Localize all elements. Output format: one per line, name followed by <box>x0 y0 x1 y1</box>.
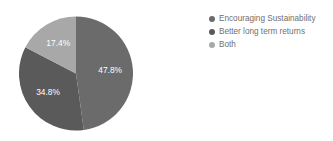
legend-item-label: Both <box>219 39 236 51</box>
pie-chart-figure: 47.8%34.8%17.4% Encouraging Sustainabili… <box>0 0 333 141</box>
legend-item[interactable]: Better long term returns <box>209 26 333 38</box>
pie-chart-plot-area: 47.8%34.8%17.4% <box>19 16 133 131</box>
legend-item-label: Better long term returns <box>219 26 305 38</box>
legend-swatch-icon <box>209 16 215 22</box>
legend-item[interactable]: Encouraging Sustainability <box>209 13 333 25</box>
pie-data-label: 17.4% <box>46 38 70 48</box>
pie-chart-svg: 47.8%34.8%17.4% <box>19 16 133 131</box>
legend-swatch-icon <box>209 29 215 35</box>
legend-item-label: Encouraging Sustainability <box>219 13 316 25</box>
pie-data-label: 47.8% <box>98 65 122 75</box>
legend-item[interactable]: Both <box>209 39 333 51</box>
legend-swatch-icon <box>209 42 215 48</box>
chart-legend: Encouraging Sustainability Better long t… <box>209 13 333 52</box>
pie-data-label: 34.8% <box>36 87 60 97</box>
